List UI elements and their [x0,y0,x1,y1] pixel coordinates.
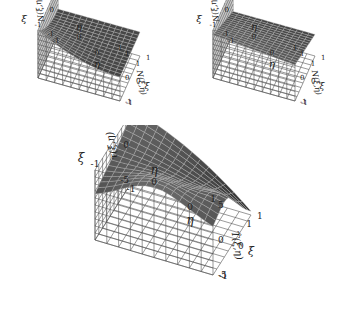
eta-axis-label-top: η [251,21,257,32]
xi-axis-label-top: ξ [78,151,86,165]
z-tick-left: 0 [225,6,229,14]
z-tick-right: 0 [125,74,129,82]
surface-plot-svg: -101-101-101-101-101ηηξξN(ξ,η)N(ξ,η) [177,0,357,135]
eta-axis-label: η [269,58,275,69]
eta-tick-top: 0 [252,33,256,41]
eta-tick-top: 0 [77,33,81,41]
z-tick-right: 5 [218,200,224,210]
eta-tick: -1 [228,37,235,45]
z-tick-right: -1 [300,98,307,106]
z-axis-label-left: N(ξ,η) [208,0,221,24]
z-tick-left: -1 [222,30,229,38]
eta-axis-label-top: η [76,21,82,32]
eta-tick: 0 [187,202,193,212]
eta-axis-label: η [186,213,194,227]
surface-plot-svg: -101-101-101-505-505ηηξξτ(ξ,η)T̂(ξ,η) [50,125,310,330]
eta-tick: -1 [53,37,60,45]
plot-bottom: -101-101-101-505-505ηηξξτ(ξ,η)T̂(ξ,η) [50,125,310,330]
z-tick-left: -1 [47,30,54,38]
z-tick-right: -5 [218,270,227,280]
eta-tick-top: 0 [151,177,157,187]
z-tick-right: 0 [300,74,304,82]
z-tick-left: 0 [50,6,54,14]
eta-tick: 1 [136,60,140,68]
eta-axis-label: η [94,58,100,69]
plot-top-right: -101-101-101-101-101ηηξξN(ξ,η)N(ξ,η) [177,0,357,135]
z-tick-right: 1 [300,50,304,58]
xi-tick: 1 [146,54,150,62]
surface-plot-svg: -101-101-101-101-101ηηξξN(ξ,η)N(ξ,η) [0,0,180,135]
z-tick-left: 0 [123,140,129,150]
z-tick-left: -5 [120,175,129,185]
xi-tick: 1 [321,54,325,62]
eta-tick-top: 1 [118,44,122,52]
eta-tick: 0 [270,49,274,57]
z-tick-right: -1 [125,98,132,106]
eta-tick: 0 [95,49,99,57]
z-tick-right: 0 [218,235,224,245]
eta-tick-top: -1 [91,159,100,169]
z-axis-label-left: N(ξ,η) [33,0,46,24]
eta-axis-label-top: η [150,163,158,177]
eta-tick: 1 [311,60,315,68]
xi-axis-label-top: ξ [21,13,27,24]
xi-axis-label-top: ξ [196,13,202,24]
xi-axis-label: ξ [248,245,255,258]
eta-tick: 1 [246,219,252,229]
eta-tick: -1 [127,184,136,194]
eta-tick-top: 1 [293,44,297,52]
xi-tick: 1 [257,211,263,221]
z-tick-right: 1 [125,50,129,58]
plot-top-left: -101-101-101-101-101ηηξξN(ξ,η)N(ξ,η) [0,0,180,135]
z-axis-label-right: T̂(ξ,η) [229,230,245,261]
eta-tick-top: 1 [210,194,216,204]
